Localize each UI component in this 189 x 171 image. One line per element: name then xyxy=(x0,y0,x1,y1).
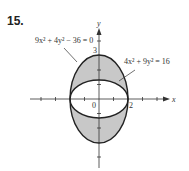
y-axis-arrow-icon xyxy=(97,28,102,35)
ellipse-figure: 9x² + 4y² − 36 = 0 4x² + 9y² = 16 y x 0 … xyxy=(0,0,189,171)
origin-label: 0 xyxy=(92,101,96,110)
outer-equation-label: 9x² + 4y² − 36 = 0 xyxy=(35,36,93,45)
y-axis-label: y xyxy=(96,19,101,28)
outer-equation-leader xyxy=(64,48,77,62)
x-axis-label: x xyxy=(171,95,176,104)
x-axis-arrow-icon xyxy=(163,97,170,102)
x-intercept-label: 2 xyxy=(129,101,133,110)
inner-equation-label: 4x² + 9y² = 16 xyxy=(124,57,170,66)
y-intercept-label: 3 xyxy=(93,46,97,55)
